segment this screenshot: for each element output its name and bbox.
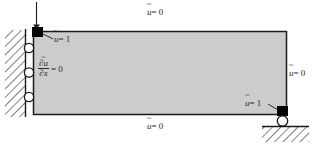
bottom-right-label-variable: u~ <box>245 98 250 108</box>
tilde-accent-icon: ~ <box>54 28 59 36</box>
right-label-relation: = 0 <box>294 68 306 78</box>
bottom-right-label-relation: = 1 <box>250 98 262 108</box>
bottom-right-ground <box>262 127 309 143</box>
bottom-right-roller-support <box>277 116 287 126</box>
left-wall-hatching <box>5 30 25 117</box>
derivative-numerator: ∂u~ <box>38 59 49 68</box>
tilde-accent-icon: ~ <box>245 92 250 100</box>
roller-support-3 <box>24 92 33 101</box>
left-flux-boundary-label: ∂u~ ∂x = 0 <box>38 59 63 79</box>
bottom-boundary-label: u~= 0 <box>147 122 163 131</box>
top-boundary-label: u~= 0 <box>147 8 163 17</box>
top-left-label-variable: u~ <box>54 34 59 44</box>
roller-support-2 <box>24 68 33 77</box>
bottom-label-variable: u~ <box>147 121 152 131</box>
right-boundary-label: u~= 0 <box>289 69 305 78</box>
boundary-condition-figure: u~= 0 u~= 0 u~= 0 u~= 1 u~= 1 ∂u~ ∂x = 0 <box>0 0 318 148</box>
top-left-marker-label: u~= 1 <box>54 35 70 44</box>
tilde-accent-icon: ~ <box>289 62 294 70</box>
derivative-fraction: ∂u~ ∂x <box>38 59 49 79</box>
top-left-square-marker <box>32 27 43 37</box>
derivative-denominator: ∂x <box>38 69 48 78</box>
top-left-label-relation: = 1 <box>59 34 71 44</box>
bottom-label-relation: = 0 <box>152 121 164 131</box>
bottom-right-square-marker <box>277 106 288 116</box>
top-label-variable: u~ <box>147 7 152 17</box>
tilde-accent-icon: ~ <box>147 1 152 9</box>
bottom-right-marker-label: u~= 1 <box>245 99 261 108</box>
tilde-accent-icon: ~ <box>147 115 152 123</box>
top-label-relation: = 0 <box>152 7 164 17</box>
tilde-accent-icon: ~ <box>38 54 49 61</box>
left-roller-supports <box>24 43 33 101</box>
right-label-variable: u~ <box>289 68 294 78</box>
left-flux-relation: = 0 <box>51 64 63 74</box>
roller-support-1 <box>24 43 33 52</box>
